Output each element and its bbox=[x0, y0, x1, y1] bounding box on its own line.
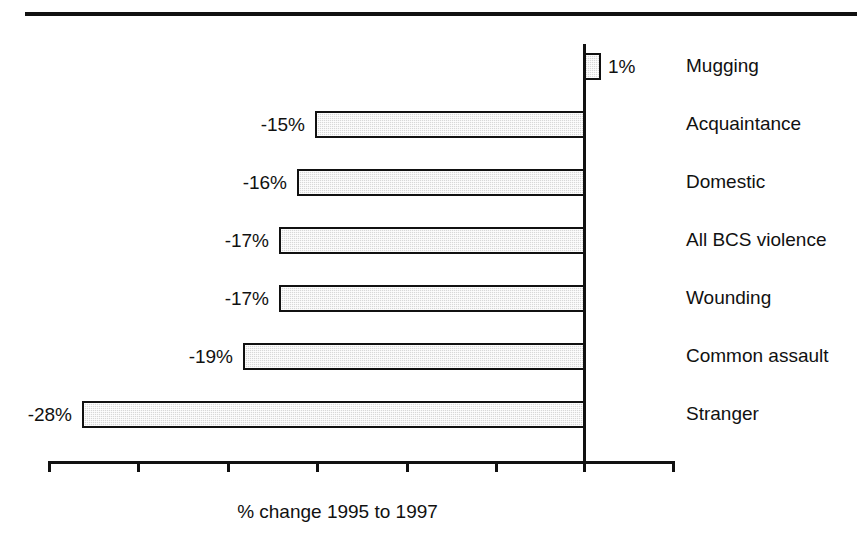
bar-row: -17% All BCS violence bbox=[0, 227, 866, 254]
category-label: Wounding bbox=[686, 285, 771, 310]
bar bbox=[297, 169, 586, 196]
x-axis-tick bbox=[316, 461, 319, 472]
bar-value-label: -28% bbox=[0, 402, 72, 427]
bar-row: -17% Wounding bbox=[0, 285, 866, 312]
bar bbox=[82, 401, 586, 428]
bar-value-label: -16% bbox=[187, 170, 287, 195]
bar-value-label: -15% bbox=[205, 112, 305, 137]
x-axis-tick bbox=[227, 461, 230, 472]
bar-row: -15% Acquaintance bbox=[0, 111, 866, 138]
bar bbox=[315, 111, 586, 138]
bar-row: -28% Stranger bbox=[0, 401, 866, 428]
category-label: All BCS violence bbox=[686, 227, 826, 252]
x-axis-tick bbox=[137, 461, 140, 472]
bar bbox=[279, 285, 586, 312]
bar-value-label: -17% bbox=[169, 286, 269, 311]
x-axis-tick bbox=[672, 461, 675, 472]
plot-area: 1% Mugging -15% Acquaintance -16% Domest… bbox=[0, 0, 866, 470]
category-label: Domestic bbox=[686, 169, 765, 194]
bar bbox=[279, 227, 586, 254]
x-axis-title: % change 1995 to 1997 bbox=[0, 500, 675, 524]
x-axis-line bbox=[48, 461, 675, 464]
zero-axis-line bbox=[583, 44, 586, 468]
bar bbox=[243, 343, 586, 370]
category-label: Stranger bbox=[686, 401, 759, 426]
bar-row: -19% Common assault bbox=[0, 343, 866, 370]
x-axis-tick bbox=[48, 461, 51, 472]
bar-value-label: 1% bbox=[608, 54, 635, 79]
bar-value-label: -19% bbox=[133, 344, 233, 369]
x-axis-tick bbox=[495, 461, 498, 472]
bar-row: -16% Domestic bbox=[0, 169, 866, 196]
category-label: Mugging bbox=[686, 53, 759, 78]
bar-value-label: -17% bbox=[169, 228, 269, 253]
category-label: Acquaintance bbox=[686, 111, 801, 136]
category-label: Common assault bbox=[686, 343, 829, 368]
chart-figure: 1% Mugging -15% Acquaintance -16% Domest… bbox=[0, 0, 866, 554]
x-axis-tick bbox=[583, 461, 586, 472]
x-axis-tick bbox=[406, 461, 409, 472]
bar-row: 1% Mugging bbox=[0, 53, 866, 80]
